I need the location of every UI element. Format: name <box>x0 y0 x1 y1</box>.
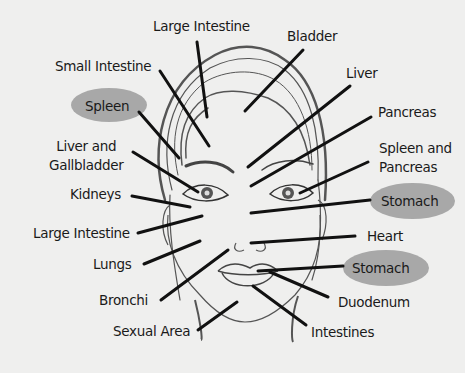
label-heart: Heart <box>367 228 403 244</box>
pointer-large-intestine-top <box>197 42 207 117</box>
label-lungs: Lungs <box>93 256 132 272</box>
pointer-kidneys <box>132 196 190 207</box>
neck <box>195 296 298 342</box>
label-pancreas: Pancreas <box>378 104 436 120</box>
label-spleen-pancreas: Spleen and Pancreas <box>379 139 452 177</box>
label-stomach-upper: Stomach <box>381 193 438 209</box>
right-eye <box>270 185 313 201</box>
lips <box>218 264 278 286</box>
label-duodenum: Duodenum <box>338 294 410 310</box>
label-liver: Liver <box>346 65 378 81</box>
label-large-intestine-top: Large Intestine <box>153 18 250 34</box>
pointer-bronchi <box>161 250 228 300</box>
pointer-spleen-pancreas <box>300 162 368 193</box>
pointer-liver-gallbladder <box>133 152 198 192</box>
label-spleen: Spleen <box>85 98 129 114</box>
pointer-liver <box>248 86 350 167</box>
label-small-intestine: Small Intestine <box>55 58 151 74</box>
nose <box>235 243 266 251</box>
face-outline <box>163 200 326 322</box>
face-map-diagram: Large Intestine Bladder Small Intestine … <box>0 0 465 373</box>
pointer-duodenum <box>270 272 328 297</box>
label-sexual-area: Sexual Area <box>113 323 190 339</box>
label-liver-gallbladder: Liver and Gallbladder <box>49 137 124 175</box>
label-bladder: Bladder <box>287 28 337 44</box>
label-stomach-lower: Stomach <box>352 260 409 276</box>
label-bronchi: Bronchi <box>99 292 148 308</box>
pointer-lines <box>132 42 371 330</box>
pointer-sexual-area <box>198 302 237 330</box>
pointer-heart <box>251 236 355 243</box>
hair-strands <box>159 47 326 300</box>
label-large-intestine-cheek: Large Intestine <box>33 225 130 241</box>
label-kidneys: Kidneys <box>70 186 121 202</box>
label-intestines: Intestines <box>311 324 374 340</box>
pointer-stomach-upper <box>251 200 370 213</box>
